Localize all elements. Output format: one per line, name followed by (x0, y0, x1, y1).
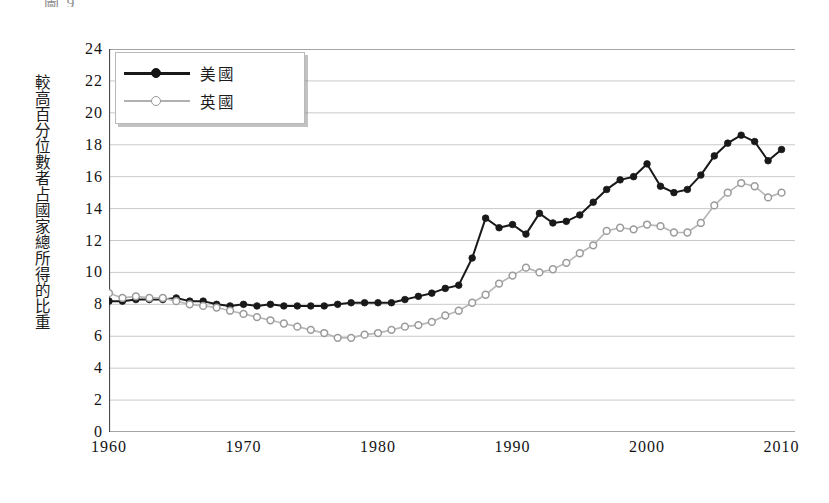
x-tick-label: 1960 (69, 437, 149, 457)
data-point (213, 304, 220, 311)
data-point (671, 189, 678, 196)
data-point (590, 199, 597, 206)
data-point (523, 231, 530, 238)
legend-label-uk: 英國 (200, 90, 235, 112)
data-point (765, 157, 772, 164)
data-point (415, 293, 422, 300)
y-tick-label: 6 (61, 328, 103, 344)
caption-fragment: 圖 9 (44, 0, 124, 7)
y-tick-label: 8 (61, 296, 103, 312)
data-point (173, 298, 180, 305)
data-point (267, 301, 274, 308)
data-point (402, 323, 409, 330)
data-point (603, 228, 610, 235)
data-point (536, 210, 543, 217)
series-markers-uk (109, 180, 785, 342)
data-point (442, 285, 449, 292)
data-point (146, 295, 153, 302)
data-point (738, 180, 745, 187)
legend-item-uk: 英國 (124, 89, 235, 113)
data-point (429, 290, 436, 297)
data-point (307, 326, 314, 333)
data-point (536, 269, 543, 276)
chart-legend: 美國 英國 (115, 52, 305, 124)
y-tick-label: 24 (61, 41, 103, 57)
data-point (469, 255, 476, 262)
data-point (334, 301, 341, 308)
data-point (563, 259, 570, 266)
data-point (455, 307, 462, 314)
series-line-us (109, 135, 782, 306)
data-point (375, 330, 382, 337)
data-point (630, 173, 637, 180)
data-point (738, 132, 745, 139)
data-point (482, 291, 489, 298)
data-point (361, 331, 368, 338)
data-point (778, 189, 785, 196)
data-point (334, 334, 341, 341)
data-point (402, 296, 409, 303)
data-point (280, 320, 287, 327)
data-point (496, 224, 503, 231)
data-point (186, 301, 193, 308)
data-point (550, 220, 557, 227)
data-point (563, 218, 570, 225)
x-tick-label: 2010 (742, 437, 822, 457)
x-tick-label: 2000 (607, 437, 687, 457)
data-point (307, 303, 314, 310)
data-point (428, 318, 435, 325)
y-tick-label: 20 (61, 105, 103, 121)
data-point (509, 272, 516, 279)
series-markers-us (109, 132, 785, 309)
data-point (159, 295, 166, 302)
x-tick-label: 1980 (338, 437, 418, 457)
data-point (657, 183, 664, 190)
y-tick-label: 16 (61, 169, 103, 185)
data-point (509, 221, 516, 228)
data-point (590, 242, 597, 249)
data-point (644, 161, 651, 168)
data-point (711, 202, 718, 209)
x-axis-tick-labels: 196019701980199020002010 (109, 437, 795, 463)
data-point (388, 299, 395, 306)
y-tick-label: 18 (61, 137, 103, 153)
data-point (348, 334, 355, 341)
data-point (240, 301, 247, 308)
data-point (415, 322, 422, 329)
y-tick-label: 22 (61, 73, 103, 89)
legend-label-us: 美國 (200, 62, 235, 84)
data-point (455, 282, 462, 289)
data-point (321, 303, 328, 310)
data-point (724, 140, 731, 147)
data-point (751, 138, 758, 145)
y-tick-label: 12 (61, 233, 103, 249)
data-point (482, 215, 489, 222)
data-point (469, 299, 476, 306)
data-point (724, 189, 731, 196)
data-point (778, 146, 785, 153)
x-tick-label: 1990 (473, 437, 553, 457)
data-point (549, 266, 556, 273)
legend-marker-uk (151, 96, 161, 106)
data-point (348, 299, 355, 306)
data-point (698, 172, 705, 179)
data-point (576, 212, 583, 219)
data-point (523, 264, 530, 271)
data-point (133, 293, 140, 300)
y-tick-label: 10 (61, 264, 103, 280)
data-point (254, 303, 261, 310)
data-point (321, 330, 328, 337)
data-point (603, 186, 610, 193)
data-point (254, 314, 261, 321)
data-point (617, 177, 624, 184)
y-axis-tick-labels: 242220181614121086420 (59, 49, 103, 432)
data-point (684, 229, 691, 236)
y-tick-label: 2 (61, 392, 103, 408)
legend-swatch-uk (124, 92, 190, 110)
data-point (200, 303, 207, 310)
data-point (240, 311, 247, 318)
data-point (109, 290, 112, 297)
y-axis-title: 較高百分位數者占國家總所得的比重 (28, 74, 50, 330)
legend-swatch-us (124, 64, 190, 82)
y-tick-label: 4 (61, 360, 103, 376)
